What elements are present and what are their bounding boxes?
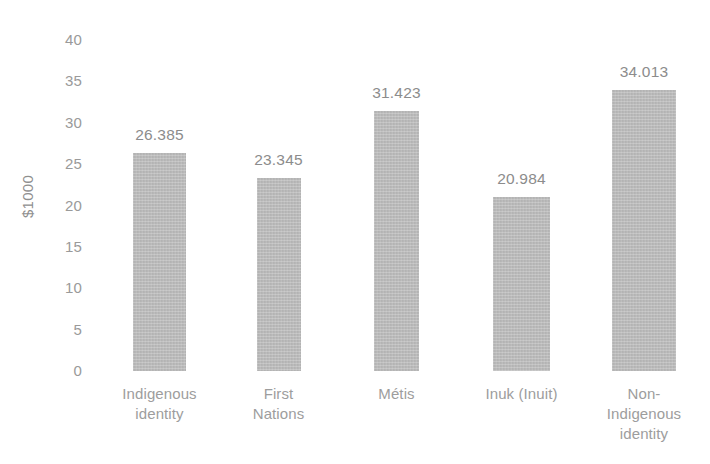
bar-value-label: 26.385: [90, 126, 230, 144]
bar: [257, 178, 301, 371]
x-category-label: Non- Indigenous identity: [569, 384, 710, 443]
bar: [612, 90, 676, 371]
bar-value-label: 20.984: [452, 170, 592, 188]
bar: [493, 197, 550, 371]
plot-area: 26.385Indigenous identity23.345First Nat…: [0, 0, 710, 464]
bar-chart: $1000 0510152025303540 26.385Indigenous …: [0, 0, 710, 464]
bar-value-label: 34.013: [574, 63, 710, 81]
bar: [374, 111, 419, 371]
bar-value-label: 23.345: [209, 151, 349, 169]
bar: [133, 153, 186, 371]
bar-value-label: 31.423: [327, 84, 467, 102]
